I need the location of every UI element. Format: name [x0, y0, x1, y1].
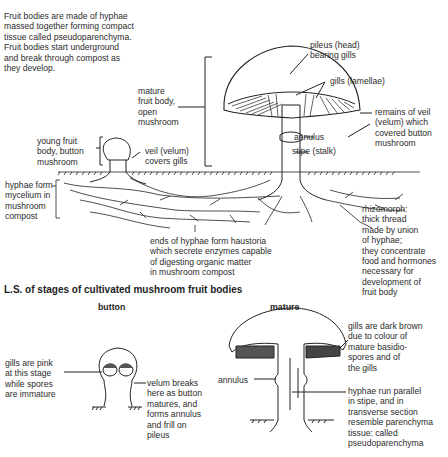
- label-gills: gills (lamellae): [330, 76, 385, 86]
- label-velum-breaks: velum breaks here as button matures, and…: [147, 378, 202, 440]
- label-annulus: annulus: [294, 132, 324, 142]
- label-haustoria: ends of hyphae form haustoria which secr…: [150, 236, 272, 278]
- label-young-fruit-body: young fruit body, button mushroom: [37, 136, 84, 167]
- label-pileus: pileus (head) bearing gills: [310, 40, 360, 61]
- label-veil: veil (velum) covers gills: [145, 146, 189, 167]
- label-mature-annulus: annulus: [218, 375, 248, 385]
- mycelium-drawing: [52, 178, 405, 232]
- label-rhizomorph: rhizomorph: thick thread made by union o…: [362, 204, 436, 298]
- button-ls-drawing: [64, 348, 146, 410]
- section-title: L.S. of stages of cultivated mushroom fr…: [4, 284, 242, 295]
- label-hyphae-mycelium: hyphae form mycelium in mushroom compost: [5, 180, 53, 222]
- soil-surface: [58, 172, 420, 175]
- mature-heading: mature: [270, 302, 299, 312]
- intro-text: Fruit bodies are made of hyphae massed t…: [4, 11, 134, 73]
- label-button-gills: gills are pink at this stage while spore…: [5, 358, 56, 400]
- mature-mushroom-drawing: [178, 46, 372, 200]
- label-mature-fruit-body: mature fruit body, open mushroom: [138, 86, 179, 128]
- mature-ls-drawing: [229, 308, 348, 432]
- button-mushroom-drawing: [90, 137, 146, 184]
- label-stipe: stipe (stalk): [292, 146, 336, 156]
- label-veil-remains: remains of veil (velum) which covered bu…: [375, 107, 432, 149]
- button-heading: button: [98, 302, 125, 312]
- label-hyphae-parallel: hyphae run parallel in stipe, and in tra…: [348, 386, 433, 448]
- label-mature-gills: gills are dark brown due to colour of ma…: [348, 321, 423, 373]
